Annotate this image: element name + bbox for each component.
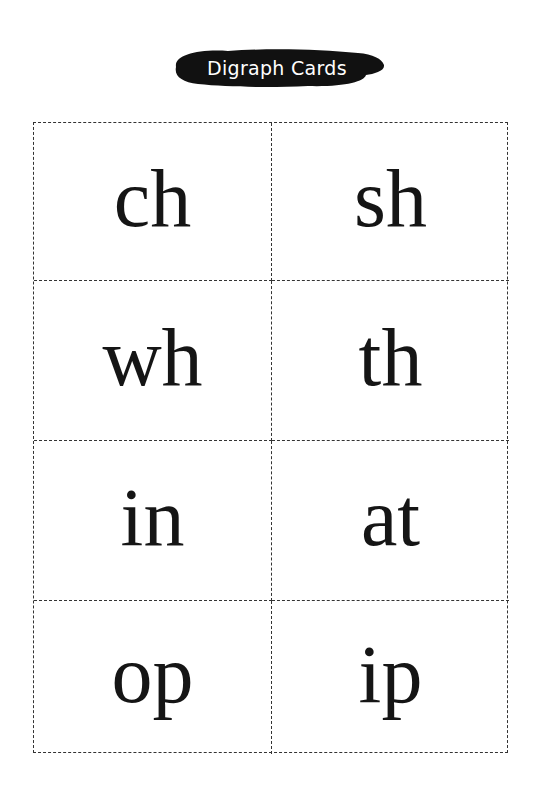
card-text: at: [361, 477, 420, 559]
card-th: th: [272, 281, 509, 441]
card-text: sh: [354, 158, 427, 240]
card-text: wh: [102, 317, 202, 399]
card-ip: ip: [272, 601, 509, 754]
card-at: at: [272, 441, 509, 601]
card-text: op: [112, 634, 194, 716]
card-grid: ch sh wh th in at op ip: [33, 122, 508, 753]
card-text: ip: [359, 634, 423, 716]
page-title: Digraph Cards: [168, 45, 386, 91]
card-sh: sh: [272, 123, 509, 281]
card-in: in: [34, 441, 272, 601]
card-ch: ch: [34, 123, 272, 281]
title-banner: Digraph Cards: [168, 45, 386, 91]
card-text: in: [121, 477, 185, 559]
card-text: ch: [114, 158, 191, 240]
card-op: op: [34, 601, 272, 754]
card-text: th: [359, 317, 423, 399]
card-wh: wh: [34, 281, 272, 441]
